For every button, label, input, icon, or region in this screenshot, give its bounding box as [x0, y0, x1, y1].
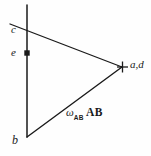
omega-symbol: ω [66, 106, 74, 118]
vertex-label-b: b [12, 134, 18, 146]
omega-subscript-ab: AB [74, 114, 84, 121]
velocity-diagram-figure: c e b a,d ωABAB [0, 0, 151, 156]
line-segment-b-to-ad [27, 67, 122, 137]
vertex-label-e: e [11, 47, 16, 58]
link-name-ab: AB [86, 106, 103, 118]
angular-velocity-annotation: ωABAB [66, 103, 103, 122]
diagram-canvas [0, 0, 151, 156]
vertex-label-c: c [11, 24, 16, 35]
point-marker-e-dot-icon [24, 50, 29, 55]
vertex-label-a-d: a,d [130, 59, 144, 70]
